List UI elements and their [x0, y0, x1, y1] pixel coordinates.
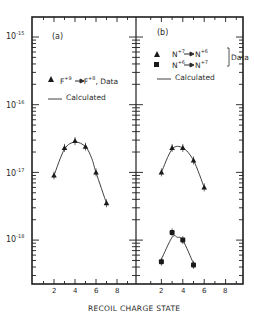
- calculated-curves: [54, 142, 204, 264]
- y-tick-label-1e-18: 10-18: [6, 233, 24, 244]
- data-point-triangle: [93, 169, 99, 174]
- calculated-curve: [54, 142, 107, 203]
- legend-b-square-icon: [154, 62, 159, 67]
- y-tick-label-1e-17: 10-17: [6, 167, 24, 178]
- legend-a-data-entry: F+9F+8, Data: [60, 75, 118, 86]
- x-tick-label-b-2: 2: [159, 287, 163, 295]
- calculated-curve: [161, 146, 204, 187]
- x-tick-label-b-8: 8: [223, 287, 227, 295]
- panel-a-label: (a): [52, 32, 63, 41]
- data-markers: [51, 137, 207, 269]
- x-tick-label-a-4: 4: [73, 287, 77, 295]
- x-tick-label-a-2: 2: [52, 287, 56, 295]
- legend-a-calculated-label: Calculated: [66, 93, 106, 102]
- calculated-curve: [161, 236, 193, 264]
- y-tick-label-1e-15: 10-15: [6, 30, 24, 41]
- data-point-square: [170, 230, 175, 235]
- data-point-triangle: [104, 200, 110, 205]
- legend-b-bracket: [227, 48, 229, 66]
- legend-b-data-label: Data: [231, 53, 249, 62]
- data-point-square: [159, 259, 164, 264]
- data-point-triangle: [191, 157, 197, 162]
- legend-b-calculated-label: Calculated: [175, 73, 215, 82]
- figure-canvas: [0, 0, 254, 326]
- legend-b-row2: N+6N+7: [172, 59, 208, 70]
- x-axis-label: RECOIL CHARGE STATE: [88, 304, 180, 313]
- data-point-square: [180, 238, 185, 243]
- x-tick-label-b-4: 4: [181, 287, 185, 295]
- legend-b-triangle-icon: [154, 51, 160, 57]
- x-tick-label-b-6: 6: [202, 287, 206, 295]
- data-point-triangle: [62, 145, 68, 150]
- data-point-triangle: [51, 172, 57, 177]
- legend-a-triangle-icon: [48, 76, 54, 82]
- panel-b-label: (b): [157, 28, 168, 37]
- data-point-triangle: [201, 184, 207, 189]
- data-point-square: [191, 262, 196, 267]
- legend-b-row1: N+7N+6: [172, 48, 208, 59]
- data-point-triangle: [72, 138, 78, 143]
- y-tick-label-1e-16: 10-16: [6, 99, 24, 110]
- x-tick-label-a-6: 6: [94, 287, 98, 295]
- x-tick-label-a-8: 8: [115, 287, 119, 295]
- data-point-triangle: [159, 169, 165, 174]
